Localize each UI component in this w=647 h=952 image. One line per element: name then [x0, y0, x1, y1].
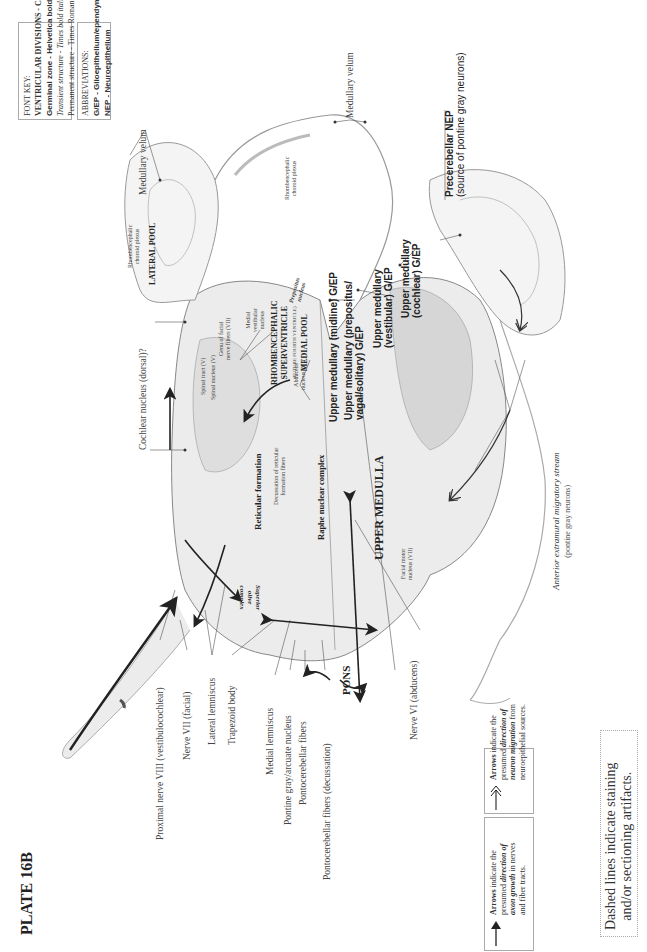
- font-key-germinal: Germinal zone - Helvetica bold: [44, 0, 55, 116]
- axon-line-1: Arrows indicate the: [489, 842, 499, 915]
- precerebellar-line-1: Precerebellar NEP: [444, 52, 455, 197]
- label-decussation-reticular: Decussation of reticular formation fiber…: [273, 448, 287, 505]
- label-superior-olive: Superior olive complex: [238, 585, 262, 610]
- label-medial-vestibular: Medial vestibular nucleus: [245, 308, 266, 332]
- facial-motor-line-1: Facial motor: [400, 548, 407, 580]
- migration-line-4: neuroepithelial sources.: [518, 704, 528, 780]
- prepositus-gep-line-1: Upper medullary (prepositus/: [343, 281, 354, 420]
- migration-line-2b: direction of: [499, 709, 508, 747]
- prepositus-gep-line-2: vagal/solitary) G/EP: [354, 281, 365, 420]
- anterior-stream-line-1: Anterior extramural migratory stream: [551, 453, 562, 590]
- font-key-transient: Transient structure - Times bold italic: [55, 0, 66, 116]
- label-facial-motor: Facial motor nucleus (VII): [400, 548, 414, 580]
- genu-line-2: nerve fibers (VII): [225, 318, 232, 360]
- label-pontocerebellar-decussation: Pontocerebellar fibers (decussation): [322, 743, 332, 880]
- label-genu-facial: Genu of facial nerve fibers (VII): [218, 318, 232, 360]
- vestibular-gep-line-1: Upper medullary: [372, 267, 383, 348]
- cochlear-gep-line-1: Upper medullary: [400, 239, 411, 318]
- facial-motor-line-2: nucleus (VII): [407, 548, 414, 580]
- label-anterior-stream: Anterior extramural migratory stream (po…: [551, 453, 573, 590]
- dashed-note-line-2: and/or sectioning artifacts.: [619, 762, 635, 930]
- label-prepositus-gep: Upper medullary (prepositus/ vagal/solit…: [343, 281, 365, 420]
- vestibular-gep-line-2: (vestibular) G/EP: [383, 267, 394, 348]
- label-vestibular-gep: Upper medullary (vestibular) G/EP: [372, 267, 394, 348]
- medial-vestibular-line-3: nucleus: [259, 308, 266, 332]
- abducens-line-1: Abducens: [293, 360, 300, 390]
- label-pontocerebellar: Pontocerebellar fibers: [298, 721, 308, 805]
- axon-line-3a: axon growth: [508, 873, 517, 915]
- migration-line-3b: from: [508, 704, 517, 722]
- axon-line-2b: direction of: [499, 844, 508, 882]
- superior-olive-line-3: complex: [238, 585, 246, 610]
- axon-line-3: axon growth in nerves: [508, 842, 518, 915]
- migration-line-1: Arrows indicate the: [489, 704, 499, 780]
- label-spinal-nucleus: Spinal nucleus (V): [210, 355, 216, 400]
- double-arrow-icon: [488, 784, 504, 810]
- medial-vestibular-line-1: Medial: [245, 308, 252, 332]
- migration-line-2a: presumed: [499, 747, 508, 780]
- migration-line-3: neuron migration from: [508, 704, 518, 780]
- label-abducens-nucleus: Abducens nucleus (VI): [293, 360, 307, 390]
- label-medullary-velum-left: Medullary velum: [138, 129, 148, 195]
- label-pontine-gray: Pontine gray/arcuate nucleus: [283, 715, 293, 825]
- label-raphe-complex: Raphe nuclear complex: [316, 455, 326, 540]
- axon-line-4: and fiber tracts.: [518, 842, 528, 915]
- label-medial-lemniscus: Medial lemniscus: [265, 708, 275, 775]
- region-lateral-pool: LATERAL POOL: [148, 223, 157, 285]
- choroid-left-line-2: choroid plexus: [134, 225, 141, 268]
- abbreviations-heading: ABBREVIATIONS:: [80, 0, 91, 116]
- decussation-line-2: formation fibers: [280, 448, 287, 505]
- label-spinal-tract: Spinal tract (V): [200, 358, 206, 395]
- label-choroid-plexus-top: Rhombencephalic choroid plexus: [284, 157, 298, 200]
- decussation-line-1: Decussation of reticular: [273, 448, 280, 505]
- label-nerve-viii: Proximal nerve VIII (vestibulocochlear): [155, 687, 165, 840]
- medial-vestibular-line-2: vestibular: [252, 308, 259, 332]
- anterior-stream-line-2: (pontine gray neurons): [562, 453, 573, 590]
- dashed-note-line-1: Dashed lines indicate staining: [603, 762, 619, 930]
- axon-line-3b: in nerves: [508, 842, 517, 873]
- abducens-line-2: nucleus (VI): [300, 360, 307, 390]
- font-key-permanent: Permanent structure - Times Roman or Bol…: [66, 0, 77, 116]
- superventricle-line-1: RHOMBENCEPHALIC: [270, 301, 280, 385]
- label-medullary-velum-top: Medullary velum: [345, 52, 355, 118]
- axon-line-2: presumed direction of: [499, 842, 509, 915]
- axon-line-1-rest: indicate the: [489, 850, 498, 889]
- superventricle-line-2: SUPERVENTRICLE: [280, 301, 290, 385]
- cochlear-gep-line-2: (cochlear) G/EP: [411, 239, 422, 318]
- dashed-lines-note: Dashed lines indicate staining and/or se…: [603, 762, 635, 930]
- label-precerebellar-nep: Precerebellar NEP (source of pontine gra…: [444, 52, 466, 197]
- axon-line-2a: presumed: [499, 882, 508, 915]
- plate-title: PLATE 16B: [18, 852, 36, 935]
- choroid-left-line-1: Rhombencephalic: [127, 225, 134, 268]
- abbreviation-nep: NEP - Neuroepithelium: [102, 0, 113, 116]
- label-nerve-vii: Nerve VII (facial): [182, 692, 192, 760]
- label-reticular-formation: Reticular formation: [253, 453, 263, 530]
- migration-line-1-rest: indicate the: [489, 715, 498, 754]
- label-lateral-lemniscus: Lateral lemniscus: [207, 678, 217, 745]
- region-pons: PONS: [340, 666, 352, 695]
- label-choroid-plexus-left: Rhombencephalic choroid plexus: [127, 225, 141, 268]
- single-arrow-icon: [488, 920, 504, 946]
- label-trapezoid-body: Trapezoid body: [227, 685, 237, 745]
- font-key-ventricular: VENTRICULAR DIVISIONS - CAPITALS: [33, 0, 44, 116]
- precerebellar-line-2: (source of pontine gray neurons): [455, 52, 466, 197]
- superior-olive-line-2: olive: [246, 585, 254, 610]
- anterior-stream-text: Anterior extramural migratory stream: [551, 453, 561, 590]
- migration-line-3a: neuron migration: [508, 722, 517, 780]
- genu-line-1: Genu of facial: [218, 318, 225, 360]
- label-nerve-vi: Nerve VI (abducens): [409, 661, 419, 740]
- migration-line-2: presumed direction of: [499, 704, 509, 780]
- superior-olive-line-1: Superior: [254, 585, 262, 610]
- abbreviation-gep: G/EP - Glioepithelium/ependyma: [91, 0, 102, 116]
- choroid-top-line-2: choroid plexus: [291, 157, 298, 200]
- label-cochlear-gep: Upper medullary (cochlear) G/EP: [400, 239, 422, 318]
- label-midline-gep: Upper medullary (midline) G/EP: [328, 272, 339, 422]
- region-upper-medulla: UPPER MEDULLA: [372, 456, 387, 560]
- font-key-text: FONT KEY: VENTRICULAR DIVISIONS - CAPITA…: [22, 0, 77, 116]
- migration-arrows-word: Arrows: [489, 754, 498, 780]
- choroid-top-line-1: Rhombencephalic: [284, 157, 291, 200]
- legend-axon-growth-text: Arrows indicate the presumed direction o…: [489, 842, 527, 915]
- axon-arrows-word: Arrows: [489, 889, 498, 915]
- label-cochlear-nucleus: Cochlear nucleus (dorsal)?: [138, 348, 148, 450]
- superventricle-roof: [215, 115, 393, 300]
